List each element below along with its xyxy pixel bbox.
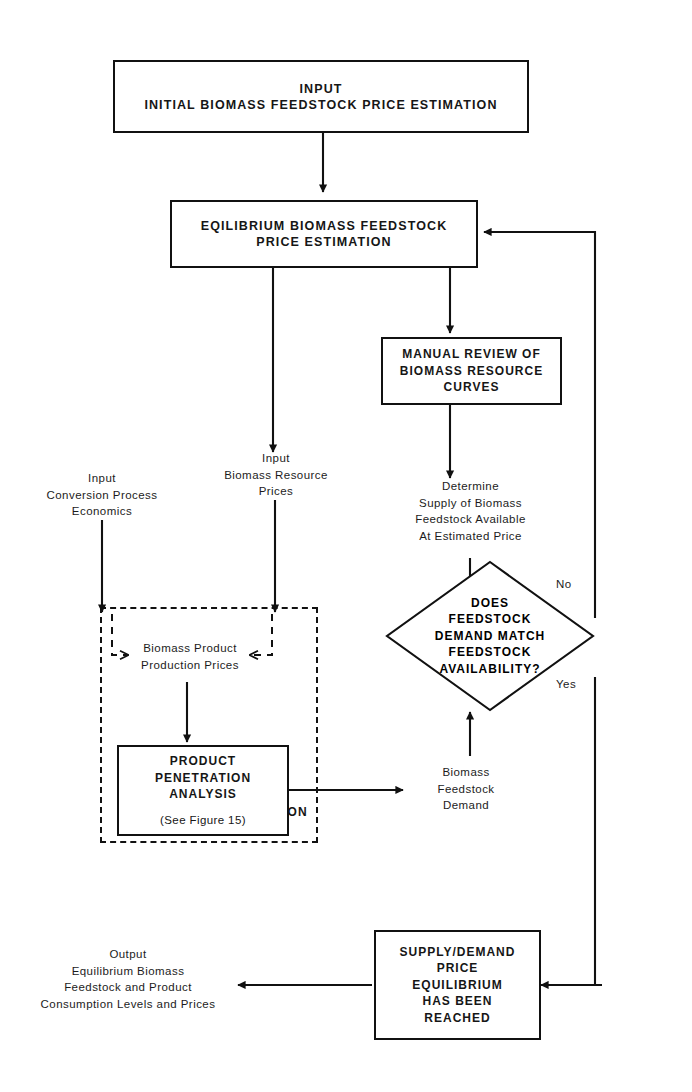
- node-manual-review: MANUAL REVIEW OF BIOMASS RESOURCE CURVES: [381, 337, 562, 405]
- node-supply-demand-line-1: SUPPLY/DEMAND: [400, 944, 516, 961]
- node-equilibrium-price-estimation: EQILIBRIUM BIOMASS FEEDSTOCK PRICE ESTIM…: [170, 200, 478, 268]
- node-penetration-line-2: PENETRATION: [155, 770, 251, 787]
- decision-line-4: FEEDSTOCK: [449, 644, 532, 661]
- node-input-biomass-resource-prices: Input Biomass Resource Prices: [196, 450, 356, 500]
- node-biomass-product-production-prices: Biomass Product Production Prices: [126, 640, 254, 673]
- node-input-initial-line-2: INITIAL BIOMASS FEEDSTOCK PRICE ESTIMATI…: [144, 97, 497, 113]
- decision-line-5: AVAILABILITY?: [439, 661, 540, 678]
- node-determine-supply: Determine Supply of Biomass Feedstock Av…: [383, 478, 558, 544]
- decision-line-1: DOES: [471, 595, 509, 612]
- node-output-line-4: Consumption Levels and Prices: [41, 996, 216, 1013]
- node-penetration-line-1: PRODUCT: [170, 753, 236, 770]
- node-conversion-line-2: Conversion Process: [46, 487, 157, 504]
- node-output-equilibrium: Output Equilibrium Biomass Feedstock and…: [22, 946, 234, 1012]
- node-determine-supply-line-2: Supply of Biomass: [419, 495, 522, 512]
- node-supply-demand-line-2: PRICE: [437, 960, 479, 977]
- node-determine-supply-line-3: Feedstock Available: [415, 511, 526, 528]
- node-manual-review-line-2: BIOMASS RESOURCE: [400, 363, 543, 380]
- node-biomass-prices-line-1: Input: [262, 450, 290, 467]
- node-determine-supply-line-1: Determine: [442, 478, 499, 495]
- node-determine-supply-line-4: At Estimated Price: [419, 528, 522, 545]
- node-output-line-3: Feedstock and Product: [64, 979, 192, 996]
- decision-line-3: DEMAND MATCH: [435, 628, 545, 645]
- node-supply-demand-line-4: HAS BEEN: [422, 993, 492, 1010]
- node-manual-review-line-1: MANUAL REVIEW OF: [402, 346, 540, 363]
- node-product-prices-line-1: Biomass Product: [143, 640, 237, 657]
- node-biomass-feedstock-demand: Biomass Feedstock Demand: [411, 764, 521, 814]
- node-supply-demand-equilibrium: SUPPLY/DEMAND PRICE EQUILIBRIUM HAS BEEN…: [374, 930, 541, 1040]
- node-input-conversion-economics: Input Conversion Process Economics: [22, 470, 182, 520]
- node-input-initial-estimation: INPUT INITIAL BIOMASS FEEDSTOCK PRICE ES…: [113, 60, 529, 133]
- node-product-prices-line-2: Production Prices: [141, 657, 239, 674]
- connector-layer: [0, 0, 692, 1092]
- node-penetration-line-3: ANALYSIS: [169, 786, 237, 803]
- decision-branch-no-label: No: [556, 578, 572, 590]
- node-product-penetration-analysis: PRODUCT PENETRATION ANALYSIS (See Figure…: [117, 745, 289, 836]
- decision-branch-yes-label: Yes: [556, 678, 576, 690]
- flowchart-figure: INPUT INITIAL BIOMASS FEEDSTOCK PRICE ES…: [0, 0, 692, 1092]
- node-conversion-line-3: Economics: [72, 503, 132, 520]
- node-manual-review-line-3: CURVES: [444, 379, 500, 396]
- node-supply-demand-line-3: EQUILIBRIUM: [412, 977, 502, 994]
- node-biomass-prices-line-3: Prices: [259, 483, 294, 500]
- node-input-initial-line-1: INPUT: [300, 81, 343, 97]
- node-output-line-2: Equilibrium Biomass: [72, 963, 185, 980]
- node-equilibrium-line-1: EQILIBRIUM BIOMASS FEEDSTOCK: [201, 218, 448, 234]
- node-biomass-prices-line-2: Biomass Resource: [224, 467, 328, 484]
- node-feedstock-demand-line-3: Demand: [443, 797, 489, 814]
- link-decision-yes: [595, 677, 602, 985]
- node-feedstock-demand-line-1: Biomass: [442, 764, 489, 781]
- node-supply-demand-line-5: REACHED: [424, 1010, 490, 1027]
- node-output-line-1: Output: [109, 946, 146, 963]
- node-penetration-figure-note: (See Figure 15): [160, 812, 246, 828]
- node-conversion-line-1: Input: [88, 470, 116, 487]
- node-feedstock-demand-line-2: Feedstock: [437, 781, 494, 798]
- decision-line-2: FEEDSTOCK: [449, 611, 532, 628]
- node-equilibrium-line-2: PRICE ESTIMATION: [256, 234, 391, 250]
